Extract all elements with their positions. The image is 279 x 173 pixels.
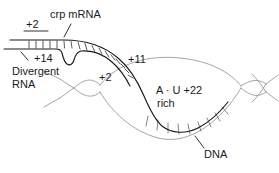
dna-strand-left-tail-upper: [60, 79, 74, 88]
dna-strand-right-tail-upper: [266, 75, 278, 84]
label-au-rich-bottom: rich: [157, 98, 175, 110]
label-plus2-mid: +2: [99, 72, 112, 84]
label-plus11: +11: [128, 54, 146, 66]
figure-canvas: crp mRNA +2 +14 Divergent RNA +2 +11 A ·…: [0, 0, 279, 173]
label-crp-mrna: crp mRNA: [50, 9, 101, 21]
dna-strand-left-far-lower: [44, 98, 60, 107]
dna-strand-left-upper: [74, 80, 100, 88]
dna-strand-left-lower: [74, 88, 100, 96]
label-au-rich-top: A · U +22: [156, 85, 202, 97]
base-pair-tick-marks-au-region: [146, 107, 228, 134]
crp-mrna-leader-line: [64, 24, 71, 37]
diagram-svg: [0, 0, 279, 173]
label-plus14: +14: [34, 53, 53, 65]
label-plus2-top: +2: [26, 19, 39, 31]
dna-strand-right-upper: [241, 80, 266, 86]
dna-strand-left-tail-lower: [60, 88, 74, 98]
dna-strand-right-tail-lower: [266, 92, 278, 101]
label-divergent: Divergent: [12, 66, 59, 78]
dna-leader-line: [195, 136, 204, 148]
plus14-leader-line: [21, 52, 28, 60]
label-rna: RNA: [12, 79, 35, 91]
label-dna: DNA: [204, 149, 227, 161]
